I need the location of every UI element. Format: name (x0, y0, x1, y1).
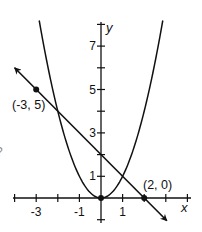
point-label-neg3-5: (-3, 5) (12, 98, 45, 112)
x-axis-label: x (180, 200, 188, 215)
x-tick-label: 1 (119, 205, 126, 219)
y-axis-label: y (105, 20, 114, 35)
x-tick-label: -3 (31, 205, 42, 219)
point-marker (98, 195, 104, 201)
x-tick-label: -1 (74, 205, 85, 219)
y-tick-labels: 1357 (89, 39, 96, 183)
point-marker (33, 87, 39, 93)
graph-figure: -3-11 1357 x y (-3, 5) (2, 0) ? (0, 0, 202, 232)
point-marker (141, 195, 147, 201)
point-label-2-0: (2, 0) (143, 178, 172, 192)
cropped-text-fragment: ? (0, 145, 3, 159)
y-tick-label: 1 (89, 169, 96, 183)
y-tick-label: 7 (89, 39, 96, 53)
x-tick-labels: -3-11 (31, 205, 126, 219)
y-axis (97, 22, 105, 223)
y-tick-label: 3 (89, 126, 96, 140)
y-tick-label: 5 (89, 83, 96, 97)
